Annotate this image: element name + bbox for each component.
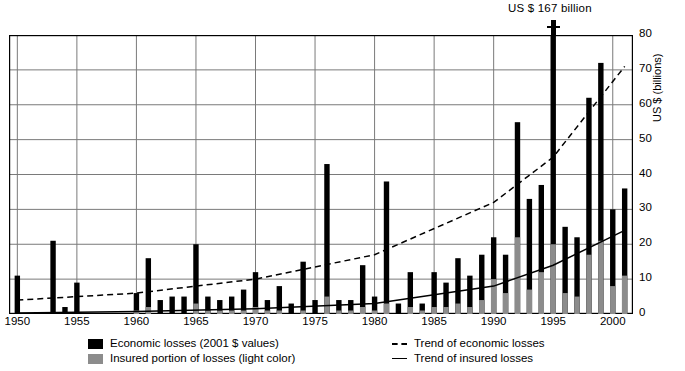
legend-item-trend-economic: Trend of economic losses [392,336,545,351]
bar-insured-2000 [610,286,615,314]
y-tick-10: 10 [639,271,652,283]
bar-insured-1967 [217,311,222,314]
plot-area [9,35,633,314]
bar-insured-1985 [431,307,436,314]
legend-label-trend-insured: Trend of insured losses [414,352,533,365]
bar-economic-1962 [158,300,163,314]
bar-economic-1972 [277,286,282,314]
x-tick-1970: 1970 [243,315,269,327]
bar-economic-1981 [384,181,389,314]
bar-economic-1979 [360,265,365,314]
plot-svg [9,35,633,314]
bar-insured-1983 [408,307,413,314]
bar-1995-cap [547,26,560,28]
bar-insured-1999 [598,241,603,314]
bar-insured-1992 [515,237,520,314]
y-tick-80: 80 [639,27,652,39]
x-tick-1985: 1985 [421,315,447,327]
economic-swatch-icon [88,339,103,349]
x-tick-1960: 1960 [124,315,150,327]
trend-insured-line [17,230,624,313]
bar-economic-1973 [289,304,294,314]
bar-insured-1990 [491,279,496,314]
bar-insured-1987 [455,304,460,314]
bar-insured-1980 [372,311,377,314]
x-tick-1990: 1990 [481,315,507,327]
bar-insured-1961 [146,307,151,314]
trend-economic-line [17,66,624,300]
bar-economic-1982 [396,304,401,314]
bar-insured-1996 [562,293,567,314]
x-tick-1955: 1955 [64,315,90,327]
bar-insured-1998 [586,255,591,314]
bar-insured-1984 [420,311,425,314]
legend-trends: Trend of economic losses Trend of insure… [392,336,545,366]
bar-insured-1995 [551,244,556,314]
bar-insured-1981 [384,304,389,314]
bar-insured-1989 [479,300,484,314]
bar-economic-1950 [15,276,20,314]
y-tick-40: 40 [639,167,652,179]
y-tick-50: 50 [639,132,652,144]
dashed-line-icon [392,339,407,349]
bar-insured-1968 [229,311,234,314]
peak-value-annotation: US $ 167 billion [508,2,592,14]
bar-insured-1986 [443,307,448,314]
y-tick-20: 20 [639,236,652,248]
y-tick-30: 30 [639,201,652,213]
legend-label-insured: Insured portion of losses (light color) [110,352,295,365]
bar-insured-1977 [336,311,341,314]
legend-label-trend-economic: Trend of economic losses [414,337,545,350]
bar-insured-1993 [527,290,532,314]
bar-insured-1974 [300,311,305,314]
legend-item-economic: Economic losses (2001 $ values) [88,336,295,351]
bar-insured-1972 [277,311,282,314]
x-tick-1995: 1995 [540,315,566,327]
bar-insured-1969 [241,311,246,314]
bar-economic-1964 [181,297,186,314]
bar-insured-1978 [348,311,353,314]
chart-figure: US $ 167 billion US $ (billions) 0102030… [0,0,685,371]
x-tick-1980: 1980 [362,315,388,327]
legend-item-trend-insured: Trend of insured losses [392,351,545,366]
legend-item-insured: Insured portion of losses (light color) [88,351,295,366]
y-tick-60: 60 [639,97,652,109]
y-axis-label: US $ (billions) [651,54,663,122]
legend-bars: Economic losses (2001 $ values) Insured … [88,336,295,366]
bar-insured-1991 [503,293,508,314]
bar-economic-1953 [50,241,55,314]
insured-swatch-icon [88,354,103,364]
bar-insured-1979 [360,307,365,314]
bar-economic-1961 [146,258,151,314]
bar-insured-1966 [205,311,210,314]
x-tick-2000: 2000 [600,315,626,327]
bar-insured-1971 [265,311,270,314]
bar-economic-1976 [324,164,329,314]
x-tick-1950: 1950 [5,315,31,327]
bar-insured-1997 [574,297,579,314]
bar-insured-1965 [193,304,198,314]
bar-insured-2001 [622,276,627,314]
solid-line-icon [392,354,407,364]
x-tick-1975: 1975 [302,315,328,327]
y-tick-0: 0 [639,306,645,318]
y-tick-70: 70 [639,62,652,74]
bar-economic-1955 [74,283,79,314]
bar-economic-1975 [312,300,317,314]
bar-insured-1988 [467,307,472,314]
bar-insured-1994 [539,272,544,314]
bar-economic-1969 [241,290,246,314]
x-tick-1965: 1965 [183,315,209,327]
legend-label-economic: Economic losses (2001 $ values) [110,337,279,350]
